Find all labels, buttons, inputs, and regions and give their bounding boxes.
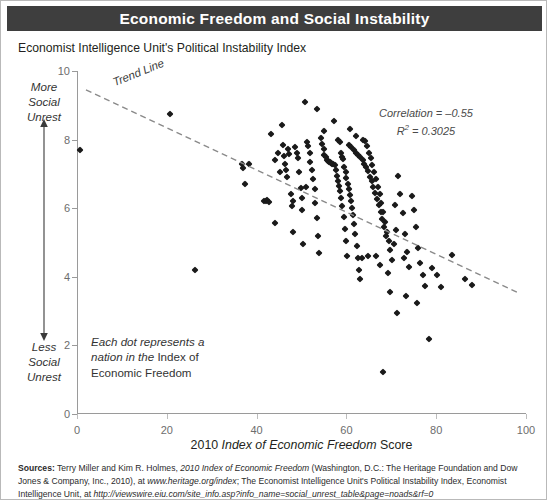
- dot-explanation-note: Each dot represents a nation in the Inde…: [91, 334, 204, 380]
- x-tick-mark: [167, 414, 168, 419]
- sources-line-1: Sources: Terry Miller and Kim R. Holmes,…: [18, 463, 498, 473]
- sources-l1b: (Washington, D.C.: The Heritage Foundati…: [309, 463, 498, 473]
- more-label-line2: Social: [15, 94, 73, 109]
- x-tick-label: 80: [430, 424, 442, 436]
- y-tick-label: 6: [64, 202, 70, 214]
- x-axis-title: 2010 Index of Economic Freedom Score: [77, 438, 526, 452]
- more-label-line1: More: [15, 79, 73, 94]
- chart-title: Economic Freedom and Social Instability: [119, 10, 429, 28]
- x-tick-mark: [346, 414, 347, 419]
- note-line-1: Each dot represents a: [91, 334, 204, 349]
- y-tick-label: 0: [64, 408, 70, 420]
- r-squared-number: = 0.3025: [409, 125, 455, 137]
- x-tick-label: 60: [340, 424, 352, 436]
- sources-l2b: ; The Economist Intelligence Unit's Poli…: [237, 476, 464, 486]
- x-title-prefix: 2010: [191, 438, 222, 452]
- y-tick-label: 8: [64, 134, 70, 146]
- sources-l3-italic: http://viewswire.eiu.com/site_info.asp?i…: [93, 489, 433, 499]
- sources-note: Sources: Terry Miller and Kim R. Holmes,…: [18, 462, 533, 500]
- sources-l1-italic: 2010 Index of Economic Freedom: [180, 463, 309, 473]
- note-line-2: nation in the Index of: [91, 349, 204, 364]
- more-social-unrest-label: More Social Unrest: [15, 79, 73, 124]
- x-tick-mark: [526, 414, 527, 419]
- r-squared-prefix: R: [397, 125, 405, 137]
- x-tick-label: 40: [250, 424, 262, 436]
- x-tick-label: 100: [517, 424, 535, 436]
- y-tick-label: 2: [64, 339, 70, 351]
- double-arrow-icon: [33, 119, 55, 341]
- chart-subtitle: Economist Intelligence Unit's Political …: [18, 41, 306, 55]
- sources-l2-italic: www.heritage.org/index: [147, 476, 236, 486]
- sources-l1a: Terry Miller and Kim R. Holmes,: [55, 463, 180, 473]
- y-tick-label: 4: [64, 271, 70, 283]
- chart-header-bar: Economic Freedom and Social Instability: [7, 6, 542, 31]
- correlation-value: Correlation = –0.55: [379, 106, 473, 122]
- x-title-suffix: Score: [377, 438, 413, 452]
- note-line-2-italic: nation in the: [91, 350, 154, 363]
- x-tick-label: 20: [161, 424, 173, 436]
- x-tick-mark: [257, 414, 258, 419]
- correlation-annotation: Correlation = –0.55 R2 = 0.3025: [379, 106, 473, 140]
- figure-container: Economic Freedom and Social Instability …: [0, 0, 547, 500]
- x-tick-label: 0: [74, 424, 80, 436]
- note-line-3: Economic Freedom: [91, 365, 204, 380]
- sources-label: Sources:: [18, 463, 55, 473]
- less-label-line3: Unrest: [15, 369, 73, 384]
- y-tick-label: 10: [58, 65, 70, 77]
- less-label-line2: Social: [15, 354, 73, 369]
- x-tick-mark: [436, 414, 437, 419]
- note-line-2-rest: Index of: [154, 350, 198, 363]
- x-title-italic: Index of Economic Freedom: [222, 438, 377, 452]
- x-tick-mark: [77, 414, 78, 419]
- r-squared-value: R2 = 0.3025: [379, 122, 473, 140]
